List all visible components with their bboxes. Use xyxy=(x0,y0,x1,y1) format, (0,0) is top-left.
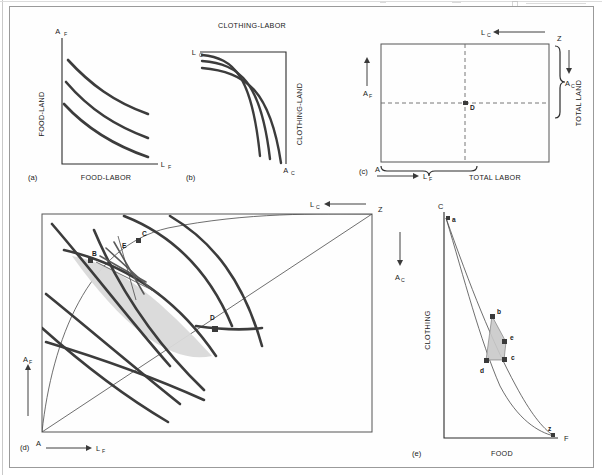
panel-b-x-symbol: A xyxy=(283,166,289,175)
panel-e-x-axis-label: FOOD xyxy=(491,449,513,458)
panel-d-point-D-label: D xyxy=(210,314,215,321)
panel-e-y-axis-label: CLOTHING xyxy=(423,310,432,350)
panel-e-point-c-label: c xyxy=(511,354,515,361)
panel-c-caption: (c) xyxy=(359,167,368,176)
panel-a-caption: (a) xyxy=(28,173,38,182)
panel-d-cloth-isoquant-e xyxy=(196,326,262,329)
panel-e-shaded-region xyxy=(486,316,506,360)
panel-a-axes xyxy=(62,38,158,164)
panel-a-x-symbol: L xyxy=(161,160,166,169)
panel-e-point-z-marker xyxy=(551,433,555,437)
scan-speck xyxy=(380,2,386,3)
panel-c-food-land-symbol: A xyxy=(363,89,369,98)
panel-c-food-labor-symbol: L xyxy=(423,172,428,181)
panel-a: A F L F FOOD-LAND FOOD-LABOR (a) xyxy=(18,14,178,184)
panel-e-point-z-label: z xyxy=(548,425,552,432)
panel-e-point-c-marker xyxy=(502,357,507,362)
panel-c-point-D-label: D xyxy=(470,104,475,111)
panel-e-point-d-marker xyxy=(484,358,489,363)
panel-b-x-symbol-sub: C xyxy=(291,170,295,176)
panel-b-y-symbol: L xyxy=(192,48,197,57)
panel-e-point-b-marker xyxy=(490,314,495,319)
panel-b-caption: (b) xyxy=(186,173,196,182)
panel-d-caption: (d) xyxy=(20,443,30,452)
scan-speck xyxy=(452,2,461,3)
panel-c-food-labor-sub: F xyxy=(429,176,432,182)
panel-c-arrowhead-cloth-land xyxy=(566,68,572,74)
panel-a-y-symbol-sub: F xyxy=(64,31,67,37)
panel-e-point-e-label: e xyxy=(510,334,514,341)
panel-c-cloth-land-symbol: A xyxy=(565,79,571,88)
panel-d-food-labor-symbol: L xyxy=(96,444,101,453)
panel-c-cloth-labor-sub: C xyxy=(487,32,491,38)
panel-e-point-d-label: d xyxy=(480,367,484,374)
panel-e-point-a-marker xyxy=(446,216,450,220)
panel-d-cloth-labor-symbol: L xyxy=(310,200,315,209)
panel-a-y-symbol: A xyxy=(55,27,61,36)
panel-e: C a b e c d z F CLOTHING FOOD (e) xyxy=(408,190,588,465)
panel-d-arrowhead-cloth-land xyxy=(397,260,403,266)
figure-page: A F L F FOOD-LAND FOOD-LABOR (a) CLOTHIN… xyxy=(0,0,602,475)
panel-e-ppf-outer xyxy=(446,218,554,436)
panel-c-brace-right xyxy=(555,46,565,118)
panel-c-origin-label: A xyxy=(375,165,381,174)
panel-d-cloth-labor-sub: C xyxy=(316,204,320,210)
panel-d-cloth-land-symbol: A xyxy=(395,273,401,282)
panel-d-food-isoquant-high xyxy=(52,224,170,366)
panel-d-diagonal xyxy=(42,214,372,432)
panel-d-point-D-marker xyxy=(212,326,218,332)
panel-c-arrowhead-food-labor xyxy=(413,173,419,179)
panel-d-food-land-symbol: A xyxy=(23,355,29,364)
panel-d-arrowhead-cloth-labor xyxy=(324,201,330,207)
scan-edge-left xyxy=(2,0,3,475)
panel-e-point-e-marker xyxy=(502,339,507,344)
panel-c-brace-bottom-label: TOTAL LABOR xyxy=(469,173,521,182)
panel-d-point-B-label: B xyxy=(92,250,97,257)
panel-e-y-intercept-label: C xyxy=(438,202,444,211)
panel-d-opposite-label: Z xyxy=(378,205,383,214)
panel-c: D A (c) Z A F L F L C A C xyxy=(355,14,595,184)
panel-d-point-C-label: C xyxy=(142,230,147,237)
panel-d-food-labor-sub: F xyxy=(102,448,105,454)
panel-d-point-B-marker xyxy=(88,258,93,263)
panel-d-point-E-label: E xyxy=(122,242,127,249)
panel-a-x-axis-label: FOOD-LABOR xyxy=(81,173,132,182)
panel-b-y-axis-label: CLOTHING-LAND xyxy=(295,83,304,146)
panel-a-isoquant-3 xyxy=(68,60,148,114)
panel-b-y-symbol-sub: C xyxy=(199,52,203,58)
panel-d: B C E D A (d) Z A F L F L C xyxy=(18,190,403,465)
panel-c-brace-right-label: TOTAL LAND xyxy=(574,80,583,126)
panel-c-arrowhead-food-land xyxy=(364,57,370,63)
panel-a-y-axis-label: FOOD-LAND xyxy=(37,91,46,136)
panel-c-arrowhead-cloth-labor xyxy=(493,29,499,35)
panel-c-cloth-labor-symbol: L xyxy=(481,28,486,37)
panel-a-isoquant-1 xyxy=(64,104,148,157)
panel-d-cloth-land-sub: C xyxy=(401,277,405,283)
panel-e-x-intercept-label: F xyxy=(564,434,569,443)
panel-b: CLOTHING-LABOR L C A C CLOTHING-LAND (b) xyxy=(168,14,353,184)
panel-c-point-D-marker xyxy=(463,101,468,105)
panel-e-ppf-inner xyxy=(446,218,554,436)
panel-c-brace-bottom xyxy=(381,166,477,176)
panel-d-origin-label: A xyxy=(36,439,42,448)
panel-e-point-b-label: b xyxy=(497,308,501,315)
panel-e-point-a-label: a xyxy=(452,216,456,223)
panel-d-point-C-marker xyxy=(136,238,141,243)
panel-d-arrowhead-food-labor xyxy=(86,445,92,451)
panel-b-x-axis-label: CLOTHING-LABOR xyxy=(218,21,286,30)
panel-d-food-land-sub: F xyxy=(29,359,32,365)
panel-c-food-land-sub: F xyxy=(369,93,372,99)
panel-e-caption: (e) xyxy=(412,449,422,458)
scan-speck xyxy=(526,3,586,4)
panel-c-opposite-label: Z xyxy=(557,34,562,43)
panel-e-axes xyxy=(444,212,558,438)
